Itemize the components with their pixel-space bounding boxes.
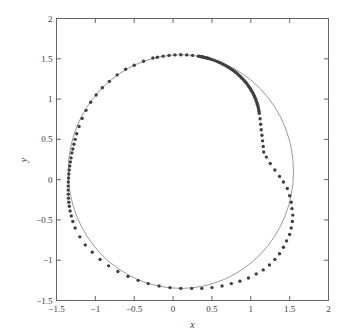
data-point [98,258,101,261]
data-point [75,132,78,135]
orbit-curve [68,55,293,289]
data-point [68,164,71,167]
data-point [136,279,139,282]
data-point [282,246,285,249]
x-tick-label: −1.5 [48,305,64,314]
data-point [167,54,170,57]
data-point [260,134,263,137]
data-point [71,220,74,223]
data-point [116,270,119,273]
data-point [142,60,145,63]
data-point [72,142,75,145]
data-point [247,276,250,279]
data-point [238,279,241,282]
data-point [67,172,70,175]
data-point [66,188,69,191]
data-point [288,233,291,236]
data-point [286,187,289,190]
tick-marks [57,19,329,301]
data-point [259,123,262,126]
data-point [291,220,294,223]
x-tick-label: 1 [249,305,254,314]
data-point [151,56,154,59]
x-tick-label: 1.5 [284,305,295,314]
data-point [70,214,73,217]
data-point [91,250,94,253]
y-tick-label: 1.5 [41,54,52,63]
data-point [290,207,293,210]
plot-canvas [0,0,349,334]
data-point [291,213,294,216]
x-tick-label: −0.5 [126,305,142,314]
data-point [126,275,129,278]
data-point [67,192,70,195]
data-point [67,176,70,179]
data-point [107,264,110,267]
data-point [179,287,182,290]
data-point [268,263,271,266]
data-point [147,282,150,285]
data-point [255,272,258,275]
axes-frame [57,19,329,301]
data-point [289,226,292,229]
data-point [73,226,76,229]
data-point [185,53,188,56]
data-point [133,64,136,67]
x-tick-label: 0 [171,305,176,314]
data-point [168,286,171,289]
data-point [157,284,160,287]
data-point [161,54,164,57]
data-point [179,53,182,56]
data-point [101,86,104,89]
data-point [71,147,74,150]
y-tick-label: 0 [48,175,53,184]
x-axis-title: x [190,320,194,330]
data-point [269,162,272,165]
y-tick-label: −1.5 [36,296,52,305]
y-axis-title: y [19,157,29,161]
data-point [67,201,70,204]
y-tick-label: 0.5 [41,135,52,144]
x-tick-label: 2 [326,305,331,314]
data-point [70,151,73,154]
data-point [115,73,118,76]
data-point [69,160,72,163]
data-point [156,56,159,59]
data-point [66,184,69,187]
data-point [261,139,264,142]
data-point [258,112,261,115]
data-point [78,235,81,238]
data-point [288,194,291,197]
data-point [273,168,276,171]
data-point [68,209,71,212]
data-point [124,68,127,71]
data-point [77,125,80,128]
data-point [80,117,83,120]
data-point [265,155,268,158]
y-tick-label: 2 [48,14,53,23]
data-point [67,180,70,183]
data-point [278,175,281,178]
data-point [108,80,111,83]
y-tick-label: 1 [48,95,53,104]
data-point [220,284,223,287]
data-point [69,156,72,159]
data-point [89,101,92,104]
data-point [94,93,97,96]
data-point [262,145,265,148]
x-tick-label: −1 [91,305,101,314]
scatter-plot-figure: −1.5−1−0.500.511.52 −1.5−1−0.500.511.52 … [0,0,349,334]
y-tick-label: −0.5 [36,215,52,224]
data-point [200,287,203,290]
data-point [262,150,265,153]
data-point [84,109,87,112]
data-point [84,243,87,246]
data-point [190,287,193,290]
data-point [173,53,176,56]
data-point [67,196,70,199]
data-point [68,168,71,171]
data-point [191,54,194,57]
data-point [285,239,288,242]
data-point [258,117,261,120]
data-point [278,252,281,255]
